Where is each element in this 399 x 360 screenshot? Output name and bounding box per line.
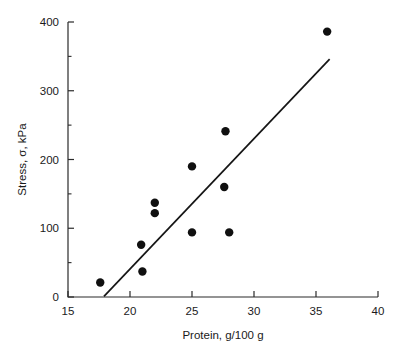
data-point	[221, 127, 229, 135]
plot-axes	[68, 22, 378, 297]
data-point	[323, 27, 331, 35]
y-axis-tick-label: 300	[40, 85, 59, 97]
regression-line	[104, 59, 330, 296]
data-point	[188, 228, 196, 236]
data-point	[151, 199, 159, 207]
plot-canvas: 0100200300400152025303540Protein, g/100 …	[0, 0, 399, 360]
x-axis-tick-label: 15	[62, 305, 75, 317]
x-axis-tick-label: 40	[372, 305, 385, 317]
data-point	[96, 278, 104, 286]
data-point	[151, 209, 159, 217]
x-axis-tick-label: 25	[186, 305, 199, 317]
x-axis-tick-label: 35	[310, 305, 323, 317]
data-point	[225, 228, 233, 236]
y-axis-tick-label: 400	[40, 16, 59, 28]
data-point	[188, 162, 196, 170]
data-point	[138, 267, 146, 275]
x-axis-tick-label: 20	[124, 305, 137, 317]
y-axis-title: Stress, σ, kPa	[16, 123, 28, 196]
y-axis-tick-label: 100	[40, 222, 59, 234]
data-point	[220, 183, 228, 191]
x-axis-tick-label: 30	[248, 305, 261, 317]
x-axis-title: Protein, g/100 g	[182, 329, 263, 341]
y-axis-tick-label: 200	[40, 154, 59, 166]
scatter-plot-figure: 0100200300400152025303540Protein, g/100 …	[0, 0, 399, 360]
data-point	[137, 241, 145, 249]
y-axis-tick-label: 0	[53, 291, 59, 303]
